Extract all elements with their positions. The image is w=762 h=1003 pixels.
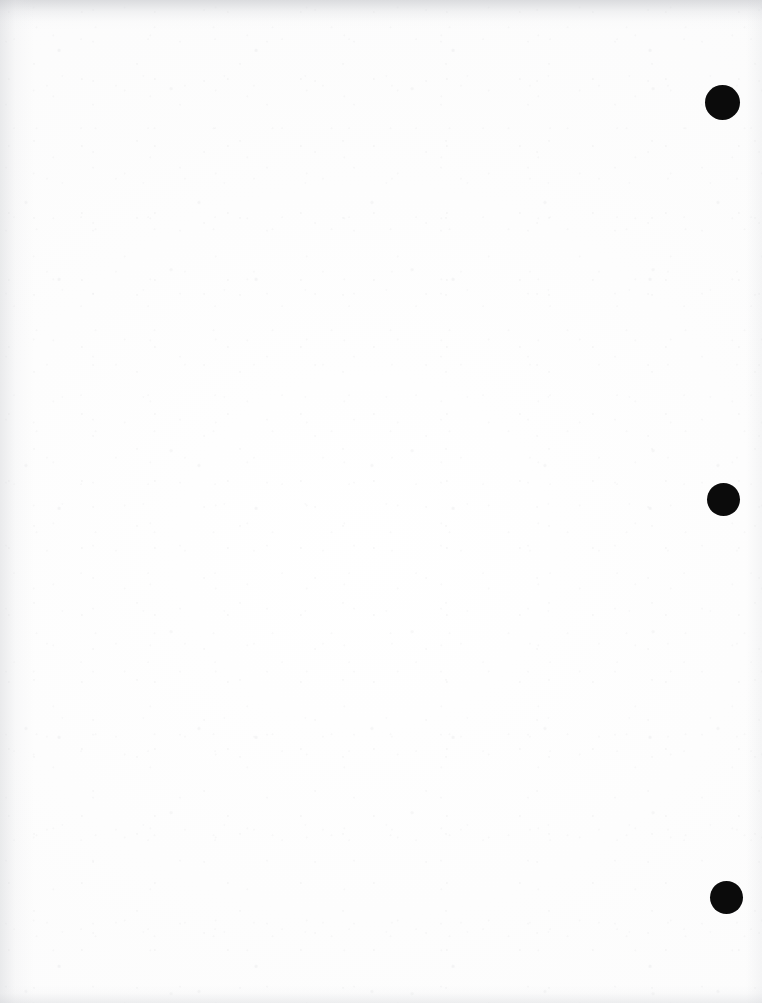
scanned-page bbox=[0, 0, 762, 1003]
paper-speckle-layer bbox=[0, 0, 762, 1003]
registration-mark-dot bbox=[705, 85, 740, 120]
registration-mark-dot bbox=[707, 483, 740, 516]
scan-edge-shadow-right bbox=[746, 0, 762, 1003]
paper-texture-layer bbox=[0, 0, 762, 1003]
scan-edge-shadow-left bbox=[0, 0, 34, 1003]
scan-edge-shadow-bottom bbox=[0, 985, 762, 1003]
scan-edge-shadow-top bbox=[0, 0, 762, 30]
registration-mark-dot bbox=[710, 881, 743, 914]
